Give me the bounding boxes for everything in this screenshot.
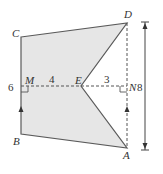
label-n: N <box>128 81 137 93</box>
measure-ad: 8 <box>137 81 143 93</box>
label-a: A <box>122 149 130 161</box>
measure-bc: 6 <box>8 81 14 93</box>
parallel-arrow-icon-ad <box>125 106 130 112</box>
label-c: C <box>12 27 20 39</box>
label-m: M <box>24 74 35 86</box>
label-b: B <box>13 135 20 147</box>
label-d: D <box>123 8 132 20</box>
measure-me: 4 <box>49 73 55 85</box>
label-e: E <box>74 74 82 86</box>
arrowhead-up-icon <box>143 23 148 29</box>
measure-en: 3 <box>104 73 110 85</box>
right-angle-marker-n <box>120 86 127 92</box>
arrowhead-down-icon <box>143 143 148 149</box>
geometry-diagram: C D E M N B A 6 4 3 8 <box>0 0 163 174</box>
